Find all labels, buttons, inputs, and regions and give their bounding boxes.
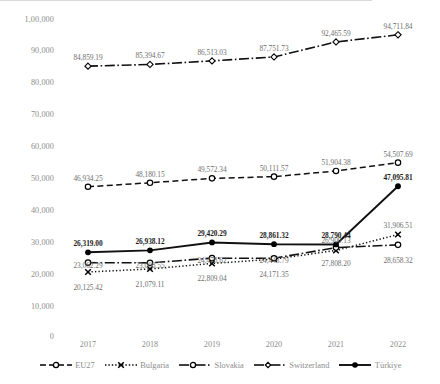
data-point-marker (209, 240, 215, 246)
data-point-label: 28,861.32 (259, 231, 288, 240)
data-point-marker (85, 63, 91, 69)
legend-label-bulgaria: Bulgaria (140, 361, 169, 370)
data-point-label: 27,808.20 (321, 259, 350, 268)
legend-swatch-switzerland (253, 360, 287, 370)
data-point-marker (395, 242, 400, 247)
line-chart: 1,00,000 90,000 80,000 70,000 60,000 50,… (0, 0, 440, 384)
data-point-marker (395, 183, 401, 189)
series-bulgaria (85, 232, 401, 275)
data-point-label: 94,711.84 (384, 22, 413, 31)
data-point-label: 48,180.15 (135, 170, 164, 179)
data-point-marker (147, 61, 153, 67)
data-point-label: 54,507.69 (383, 150, 412, 159)
data-point-label: 23,062.29 (73, 261, 102, 270)
data-point-label: 46,934.25 (73, 174, 102, 183)
data-point-label: 22,809.04 (197, 274, 226, 283)
data-point-marker (209, 176, 214, 181)
series-eu27 (85, 160, 400, 189)
data-point-marker (271, 54, 277, 60)
legend-item-switzerland[interactable]: Switzerland (253, 360, 330, 370)
data-point-label: 92,465.59 (321, 29, 350, 38)
legend-item-slovakia[interactable]: Slovakia (178, 360, 244, 370)
data-point-marker (271, 241, 277, 247)
data-point-marker (395, 232, 401, 238)
series-türkiye (85, 183, 401, 255)
data-point-label: 51,904.38 (321, 158, 350, 167)
data-point-label: 31,906.51 (383, 221, 412, 230)
data-point-label: 20,125.42 (73, 283, 102, 292)
data-point-marker (147, 247, 153, 253)
data-point-label: 47,095.81 (383, 173, 412, 182)
data-point-marker (85, 249, 91, 255)
data-point-label: 28,790.44 (321, 231, 350, 240)
series-switzerland (85, 32, 401, 70)
data-point-marker (209, 58, 215, 64)
legend-swatch-turkiye (338, 360, 372, 370)
legend-label-slovakia: Slovakia (215, 361, 244, 370)
data-point-label: 24,171.35 (259, 270, 288, 279)
data-point-label: 26,938.12 (135, 237, 164, 246)
data-point-label: 23,008.55 (135, 261, 164, 270)
legend-item-bulgaria[interactable]: Bulgaria (104, 360, 169, 370)
data-point-label: 86,513.03 (197, 48, 226, 57)
data-point-label: 29,420.29 (197, 229, 226, 238)
legend-swatch-bulgaria (104, 360, 138, 370)
data-point-marker (333, 39, 339, 45)
data-point-label: 28,658.32 (383, 256, 412, 265)
data-point-marker (333, 168, 338, 173)
data-point-label: 84,859.19 (73, 53, 102, 62)
legend-swatch-slovakia (178, 360, 212, 370)
data-point-marker (85, 269, 91, 275)
legend-label-turkiye: Türkiye (375, 361, 402, 370)
data-point-marker (271, 174, 276, 179)
legend-label-eu27: EU27 (75, 361, 95, 370)
series-plot-area (0, 0, 440, 384)
data-point-label: 24,478.62 (197, 256, 226, 265)
chart-legend: EU27 Bulgaria Slovakia Switzerland (0, 358, 440, 384)
data-point-label: 49,572.34 (197, 165, 226, 174)
data-point-marker (395, 160, 400, 165)
data-point-marker (395, 32, 401, 38)
legend-swatch-eu27 (39, 360, 73, 370)
legend-item-eu27[interactable]: EU27 (39, 360, 95, 370)
data-point-label: 26,319.00 (73, 239, 102, 248)
data-point-marker (85, 184, 90, 189)
legend-item-turkiye[interactable]: Türkiye (338, 360, 401, 370)
data-point-label: 87,751.73 (259, 44, 288, 53)
data-point-label: 21,079.11 (136, 280, 165, 289)
legend-label-switzerland: Switzerland (289, 361, 329, 370)
data-point-label: 85,394.67 (135, 51, 164, 60)
data-point-marker (147, 180, 152, 185)
data-point-label: 50,111.57 (260, 164, 289, 173)
data-point-label: 24,443.79 (259, 256, 288, 265)
